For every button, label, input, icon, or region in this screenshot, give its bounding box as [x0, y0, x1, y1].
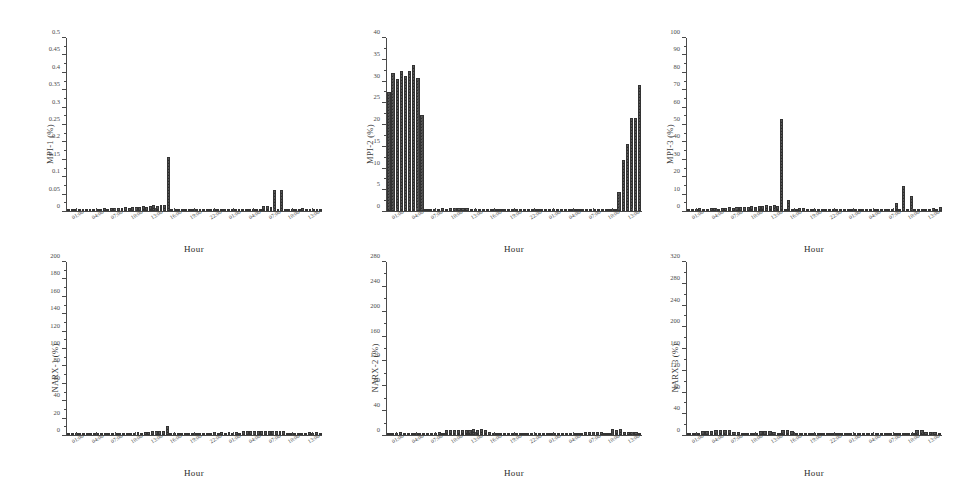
- bar: [634, 118, 637, 211]
- chart-panel-narx-2: NARX-2 (%) 04080120160200240280 01:0004:…: [348, 252, 648, 484]
- bar: [404, 76, 407, 211]
- y-tick-label: 100: [670, 28, 680, 35]
- bar: [723, 430, 727, 435]
- bar: [824, 209, 827, 211]
- y-tick-mark-minor: [384, 157, 387, 158]
- y-tick-label: 0.15: [49, 149, 60, 156]
- bar: [248, 209, 251, 211]
- bar: [768, 431, 772, 435]
- bar: [246, 431, 249, 435]
- bar: [465, 208, 468, 211]
- y-tick-label: 160: [50, 286, 60, 293]
- y-tick-mark-minor: [64, 287, 67, 288]
- bar: [622, 160, 625, 211]
- bar: [706, 209, 709, 211]
- bar: [580, 209, 583, 211]
- bar: [546, 433, 549, 435]
- bar: [569, 433, 572, 435]
- y-tick-label: 5: [377, 180, 380, 187]
- bar: [131, 207, 134, 211]
- y-tick-label: 120: [370, 351, 380, 358]
- x-tick-labels: 01:0004:0007:0010:0013:0016:0019:0022:00…: [686, 212, 942, 230]
- y-tick-mark-minor: [64, 322, 67, 323]
- bar: [687, 433, 691, 435]
- y-axis-label: NARX-1 (%): [50, 343, 60, 392]
- bar: [780, 119, 783, 211]
- bar: [224, 433, 227, 435]
- bar-series: [387, 262, 642, 435]
- bar: [449, 430, 452, 435]
- bar: [445, 430, 448, 435]
- y-tick-mark-minor: [64, 270, 67, 271]
- y-tick-label: 40: [374, 401, 381, 408]
- bar: [826, 433, 830, 435]
- y-tick-mark: [682, 326, 686, 327]
- y-tick-mark-minor: [684, 359, 687, 360]
- bar: [202, 433, 205, 435]
- bar: [449, 208, 452, 211]
- bar: [110, 208, 113, 211]
- y-tick-label: 0: [57, 202, 60, 209]
- y-tick-mark-minor: [384, 348, 387, 349]
- plot-area-narx-1: 020406080100120140160180200: [66, 262, 322, 436]
- y-tick-mark: [682, 54, 686, 55]
- y-tick-mark: [382, 37, 386, 38]
- bar: [428, 209, 431, 211]
- bar: [124, 207, 127, 211]
- y-tick-label: 0.25: [49, 115, 60, 122]
- bar: [745, 433, 749, 435]
- y-tick-mark-minor: [384, 178, 387, 179]
- bar-series: [67, 262, 322, 435]
- y-tick-mark-minor: [684, 272, 687, 273]
- chart-panel-mpi-2: MPI-2 (%) 0510152025303540 01:0004:0007:…: [348, 28, 648, 260]
- y-tick-mark: [62, 383, 66, 384]
- y-tick-mark: [382, 286, 386, 287]
- bar: [300, 433, 303, 435]
- bar: [287, 209, 290, 211]
- bar: [924, 432, 928, 435]
- y-tick-mark: [382, 385, 386, 386]
- bar-series: [687, 38, 942, 211]
- bar: [86, 433, 89, 435]
- y-tick-label: 0.1: [52, 167, 60, 174]
- bar: [565, 433, 568, 435]
- y-tick-label: 120: [50, 321, 60, 328]
- y-tick-mark: [62, 54, 66, 55]
- bar: [503, 433, 506, 435]
- bar: [564, 209, 567, 211]
- y-tick-mark-minor: [64, 357, 67, 358]
- y-tick-mark-minor: [64, 409, 67, 410]
- bar: [286, 433, 289, 435]
- bar: [924, 209, 927, 211]
- bar: [888, 433, 892, 435]
- y-tick-label: 0: [57, 426, 60, 433]
- y-tick-label: 25: [374, 93, 381, 100]
- y-tick-mark-minor: [384, 48, 387, 49]
- plot-area-mpi-2: 0510152025303540: [386, 38, 642, 212]
- y-tick-mark-minor: [684, 168, 687, 169]
- bar: [308, 432, 311, 435]
- y-tick-mark: [382, 168, 386, 169]
- bar: [170, 209, 173, 211]
- bar: [921, 209, 924, 211]
- y-tick-label: 0.35: [49, 80, 60, 87]
- bar: [810, 209, 813, 211]
- bar: [828, 209, 831, 211]
- plot-area-narx-3: 04080120160200240280320: [686, 262, 942, 436]
- y-tick-mark-minor: [684, 402, 687, 403]
- y-tick-mark-minor: [684, 337, 687, 338]
- bar: [424, 209, 427, 211]
- bar: [163, 205, 166, 211]
- bar: [144, 432, 147, 435]
- y-tick-label: 200: [50, 252, 60, 259]
- bar: [585, 209, 588, 211]
- y-tick-mark-minor: [684, 202, 687, 203]
- bar-series: [387, 38, 642, 211]
- y-tick-mark-minor: [64, 115, 67, 116]
- bar: [262, 206, 265, 211]
- y-tick-mark-minor: [384, 200, 387, 201]
- y-tick-mark: [62, 278, 66, 279]
- bar: [589, 209, 592, 211]
- bar: [490, 209, 493, 211]
- bar: [588, 432, 591, 435]
